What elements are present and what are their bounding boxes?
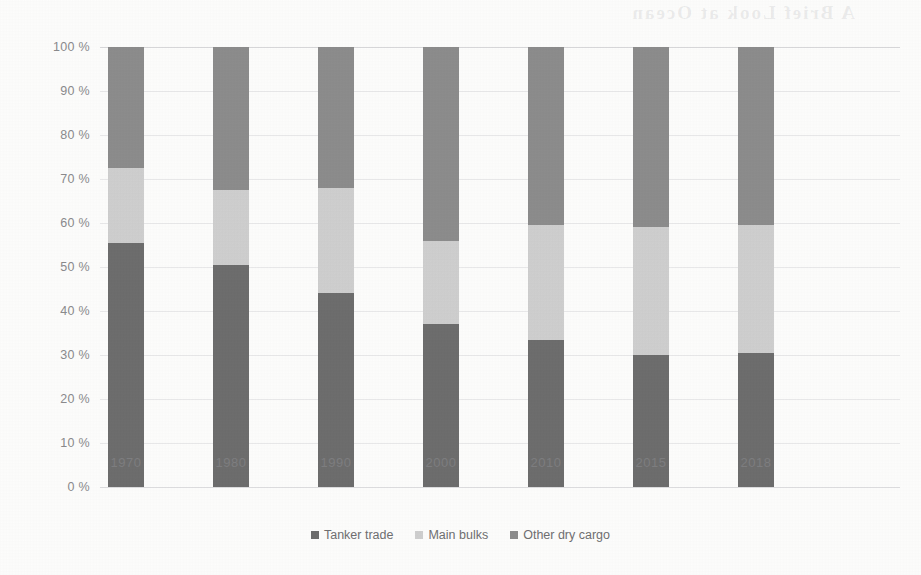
bar-segment-main-bulks-1980[interactable] (213, 190, 249, 265)
x-tick-label-2015: 2015 (606, 455, 696, 470)
bar-2018[interactable] (738, 47, 774, 487)
x-tick-label-2018: 2018 (711, 455, 801, 470)
x-tick-label-2010: 2010 (501, 455, 591, 470)
x-tick-label-1990: 1990 (291, 455, 381, 470)
y-tick-label-40: 40 % (28, 304, 90, 318)
bar-2010[interactable] (528, 47, 564, 487)
legend-swatch-icon (510, 531, 518, 539)
bar-segment-main-bulks-1970[interactable] (108, 168, 144, 243)
chart-figure: A Brief Look at Ocean 0 %10 %20 %30 %40 … (0, 0, 921, 575)
y-tick-label-0: 0 % (28, 480, 90, 494)
bar-segment-tanker-trade-1980[interactable] (213, 265, 249, 487)
chart-legend: Tanker tradeMain bulksOther dry cargo (0, 528, 921, 542)
bar-segment-other-dry-cargo-1970[interactable] (108, 47, 144, 168)
y-tick-label-20: 20 % (28, 392, 90, 406)
bar-segment-main-bulks-2018[interactable] (738, 225, 774, 353)
y-tick-label-90: 90 % (28, 84, 90, 98)
bar-segment-other-dry-cargo-1980[interactable] (213, 47, 249, 190)
bar-segment-other-dry-cargo-2000[interactable] (423, 47, 459, 241)
bar-segment-main-bulks-2010[interactable] (528, 225, 564, 339)
y-tick-label-70: 70 % (28, 172, 90, 186)
y-tick-label-100: 100 % (28, 40, 90, 54)
scan-bleed-through-text: A Brief Look at Ocean (455, 2, 855, 30)
legend-swatch-icon (415, 531, 423, 539)
legend-item-other-dry-cargo[interactable]: Other dry cargo (510, 528, 610, 542)
legend-item-main-bulks[interactable]: Main bulks (415, 528, 488, 542)
bar-1980[interactable] (213, 47, 249, 487)
x-tick-label-1980: 1980 (186, 455, 276, 470)
x-tick-label-2000: 2000 (396, 455, 486, 470)
bar-segment-other-dry-cargo-2015[interactable] (633, 47, 669, 227)
bar-segment-main-bulks-2000[interactable] (423, 241, 459, 325)
x-tick-label-1970: 1970 (81, 455, 171, 470)
legend-label: Tanker trade (324, 528, 393, 542)
y-tick-label-30: 30 % (28, 348, 90, 362)
legend-swatch-icon (311, 531, 319, 539)
bar-1990[interactable] (318, 47, 354, 487)
plot-area (100, 47, 900, 487)
legend-item-tanker-trade[interactable]: Tanker trade (311, 528, 393, 542)
bar-2000[interactable] (423, 47, 459, 487)
bar-segment-main-bulks-2015[interactable] (633, 227, 669, 355)
bar-segment-tanker-trade-1970[interactable] (108, 243, 144, 487)
legend-label: Main bulks (428, 528, 488, 542)
y-tick-label-50: 50 % (28, 260, 90, 274)
bar-segment-other-dry-cargo-2018[interactable] (738, 47, 774, 225)
y-tick-label-10: 10 % (28, 436, 90, 450)
bar-segment-main-bulks-1990[interactable] (318, 188, 354, 294)
bar-2015[interactable] (633, 47, 669, 487)
legend-label: Other dry cargo (523, 528, 610, 542)
y-tick-label-80: 80 % (28, 128, 90, 142)
bar-1970[interactable] (108, 47, 144, 487)
gridline-0 (100, 487, 900, 488)
bar-segment-other-dry-cargo-2010[interactable] (528, 47, 564, 225)
bar-segment-other-dry-cargo-1990[interactable] (318, 47, 354, 188)
y-tick-label-60: 60 % (28, 216, 90, 230)
